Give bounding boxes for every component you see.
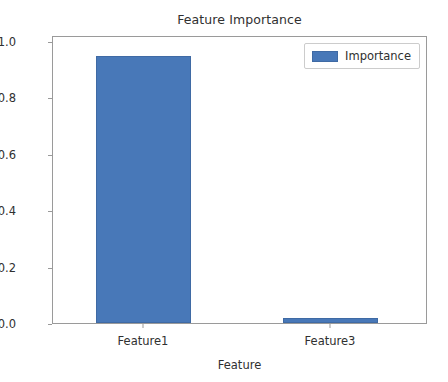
legend-color-swatch-importance xyxy=(312,51,338,62)
plot-area: Importance xyxy=(52,36,427,324)
y-tick-label-4: 0.8 xyxy=(0,91,16,105)
bar-feature3[interactable] xyxy=(283,318,378,323)
x-tick-mark-feature1 xyxy=(143,324,144,328)
matplotlib-figure: Feature Importance 0.0 0.2 0.4 0.6 0.8 1… xyxy=(0,0,448,382)
x-tick-label-feature1: Feature1 xyxy=(118,334,169,348)
y-tick-label-1: 0.2 xyxy=(0,261,16,275)
bar-feature1[interactable] xyxy=(96,56,191,323)
legend-label-importance: Importance xyxy=(345,49,411,63)
x-tick-label-feature3: Feature3 xyxy=(305,334,356,348)
chart-title: Feature Importance xyxy=(52,12,427,27)
y-tick-label-3: 0.6 xyxy=(0,148,16,162)
bars-layer xyxy=(53,37,426,323)
x-tick-mark-feature3 xyxy=(330,324,331,328)
chart-legend[interactable]: Importance xyxy=(304,43,420,69)
x-axis-title: Feature xyxy=(52,358,427,372)
y-tick-label-0: 0.0 xyxy=(0,317,16,331)
y-tick-label-2: 0.4 xyxy=(0,204,16,218)
y-tick-mark-0 xyxy=(48,324,52,325)
y-tick-label-5: 1.0 xyxy=(0,35,16,49)
